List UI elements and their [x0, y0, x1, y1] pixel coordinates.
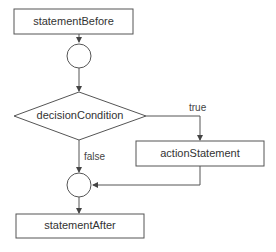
junction-circle-bottom	[67, 173, 91, 197]
decision-condition-label: decisionCondition	[14, 109, 146, 121]
flowchart-canvas	[0, 0, 276, 252]
true-branch-edge	[146, 116, 200, 140]
junction-circle-top	[67, 44, 91, 68]
statement-after-label: statementAfter	[16, 219, 144, 231]
false-label: false	[84, 151, 105, 162]
merge-edge	[93, 166, 200, 185]
action-statement-label: actionStatement	[136, 147, 264, 159]
true-label: true	[189, 102, 206, 113]
statement-before-label: statementBefore	[14, 15, 133, 27]
